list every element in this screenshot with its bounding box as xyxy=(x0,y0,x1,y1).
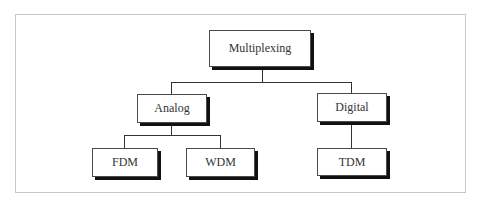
node-fdm: FDM xyxy=(92,148,158,177)
connector-analog-bar xyxy=(124,135,221,136)
connector-to-wdm xyxy=(220,135,221,148)
connector-to-digital xyxy=(351,82,352,93)
connector-level1-bar xyxy=(171,82,352,83)
connector-analog-down xyxy=(171,123,172,135)
connector-digital-to-tdm xyxy=(351,122,352,148)
node-multiplexing: Multiplexing xyxy=(209,30,311,67)
node-tdm: TDM xyxy=(317,148,387,176)
node-digital: Digital xyxy=(317,93,387,122)
node-wdm: WDM xyxy=(186,148,255,177)
connector-root-down xyxy=(262,67,263,83)
node-analog: Analog xyxy=(137,94,207,123)
connector-to-analog xyxy=(171,82,172,94)
connector-to-fdm xyxy=(124,135,125,148)
